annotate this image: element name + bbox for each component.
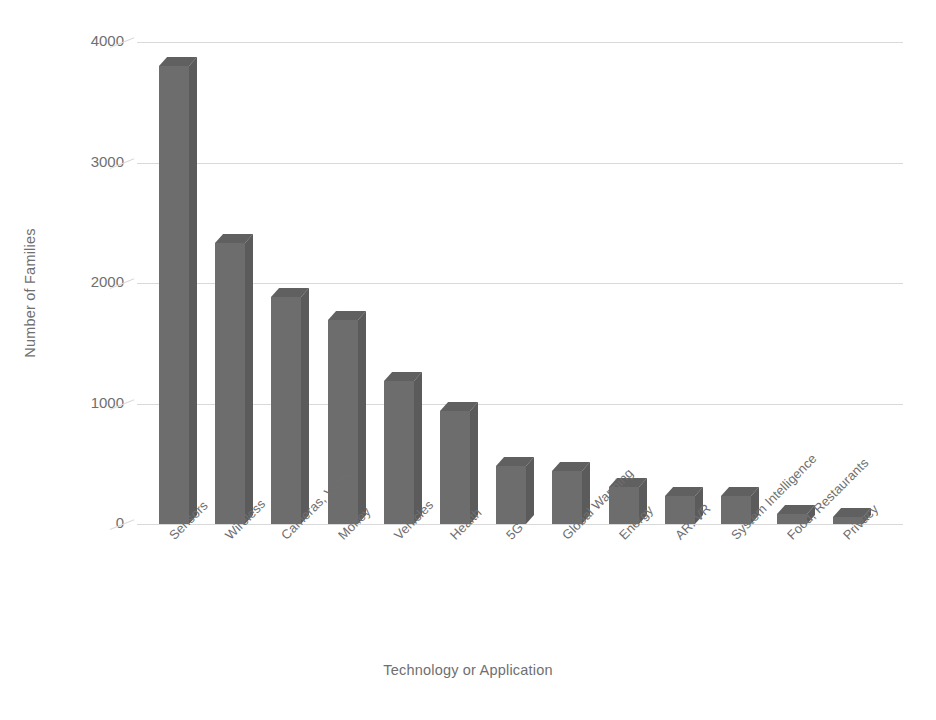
- bar-front-face: [384, 381, 414, 524]
- y-axis-tick-leader: [110, 399, 134, 410]
- bar: [215, 234, 245, 524]
- bar-side-face: [245, 234, 253, 524]
- bar-front-face: [271, 297, 301, 524]
- y-axis-title: Number of Families: [22, 193, 38, 393]
- gridline: [137, 163, 903, 164]
- y-axis-tick-leader: [110, 278, 134, 289]
- y-axis-tick-leader: [110, 158, 134, 169]
- x-axis-title: Technology or Application: [0, 662, 936, 678]
- y-axis-tick-leader: [110, 37, 134, 48]
- bar-chart: Number of Families 01000200030004000 Sen…: [0, 0, 936, 720]
- bar: [384, 372, 414, 524]
- bar-front-face: [215, 243, 245, 524]
- bar-side-face: [358, 311, 366, 524]
- y-axis-tick-leader: [110, 519, 134, 530]
- plot-area: [137, 30, 903, 530]
- bar: [159, 57, 189, 524]
- bar-side-face: [301, 289, 309, 524]
- gridline: [137, 42, 903, 43]
- bar-side-face: [526, 457, 534, 524]
- x-axis-category-labels: SensorsWirelessCameras, VideoMoneyVehicl…: [137, 532, 927, 652]
- bar-side-face: [189, 57, 197, 524]
- bar: [496, 457, 526, 524]
- bar-front-face: [159, 66, 189, 524]
- bar: [271, 288, 301, 524]
- bar: [440, 402, 470, 524]
- bar-front-face: [496, 466, 526, 524]
- bar-front-face: [440, 411, 470, 524]
